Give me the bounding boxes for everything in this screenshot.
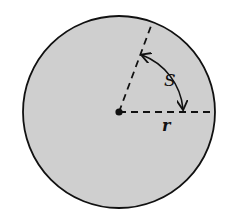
center-point <box>115 108 122 115</box>
arc-label: S <box>164 70 176 90</box>
circle-diagram: S r <box>0 0 227 223</box>
circle-figure: S r <box>0 0 227 223</box>
